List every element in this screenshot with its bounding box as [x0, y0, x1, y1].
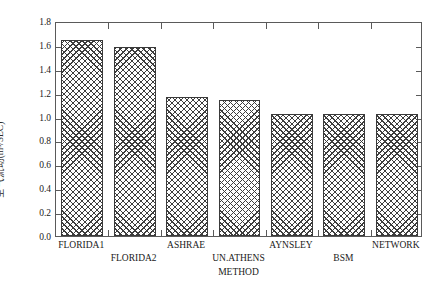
bar [61, 40, 103, 236]
x-axis-category-label: BSM [333, 252, 353, 264]
y-axis-title: 空气流动(m³/SEC) [0, 45, 7, 275]
x-axis-category-label: FLORIDA2 [111, 252, 157, 264]
y-axis-tick-label: 1.8 [20, 17, 51, 27]
y-axis-tick-label: 1.2 [20, 89, 51, 99]
x-axis-category-label: UN.ATHENS [212, 252, 265, 264]
x-axis-category-label: AYNSLEY [269, 239, 312, 251]
x-axis-category-label: FLORIDA1 [58, 239, 104, 251]
y-axis-tick-label: 0.0 [20, 232, 51, 242]
plot-area [55, 22, 422, 237]
bars-layer [56, 23, 421, 236]
y-axis-tick-label: 0.6 [20, 160, 51, 170]
bar-chart-figure: 空气流动(m³/SEC) 0.00.20.40.60.81.01.21.41.6… [0, 0, 440, 297]
y-axis-tick-labels: 0.00.20.40.60.81.01.21.41.61.8 [20, 22, 51, 237]
y-axis-tick-label: 1.0 [20, 113, 51, 123]
bar [376, 114, 418, 236]
bar [219, 100, 261, 236]
y-axis-tick-label: 1.6 [20, 41, 51, 51]
x-axis-title: METHOD [55, 266, 422, 278]
bar [114, 47, 156, 236]
bar [323, 114, 365, 236]
y-axis-tick-label: 1.4 [20, 65, 51, 75]
bar [166, 97, 208, 236]
y-axis-tick-label: 0.8 [20, 136, 51, 146]
y-axis-tick-label: 0.4 [20, 184, 51, 194]
y-axis-tick-label: 0.2 [20, 208, 51, 218]
x-axis-category-labels: FLORIDA1FLORIDA2ASHRAEUN.ATHENSAYNSLEYBS… [55, 239, 422, 267]
x-axis-category-label: NETWORK [372, 239, 420, 251]
bar [271, 114, 313, 236]
x-axis-category-label: ASHRAE [167, 239, 205, 251]
